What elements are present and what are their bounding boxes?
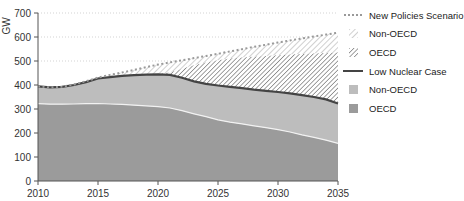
- legend-item-low-nuclear: Low Nuclear Case: [342, 62, 446, 81]
- x-tick-label: 2035: [327, 188, 350, 199]
- legend: New Policies Scenario Non-OECD OECD Low …: [342, 6, 446, 118]
- y-tick-label: 400: [14, 80, 31, 91]
- legend-label: Low Nuclear Case: [369, 66, 447, 77]
- x-tick-label: 2015: [87, 188, 110, 199]
- legend-item-nonoecd-solid: Non-OECD: [342, 80, 446, 99]
- legend-label: Non-OECD: [369, 84, 417, 95]
- legend-label: Non-OECD: [369, 28, 417, 39]
- y-tick-label: 100: [14, 152, 31, 163]
- legend-item-nonoecd-hatch: Non-OECD: [342, 25, 446, 44]
- y-tick-label: 200: [14, 128, 31, 139]
- y-axis-label: GW: [1, 17, 12, 35]
- y-tick-label: 600: [14, 32, 31, 43]
- dotted-line-icon: [342, 10, 364, 20]
- light-grey-swatch-icon: [342, 85, 364, 95]
- x-tick-label: 2025: [207, 188, 230, 199]
- legend-label: New Policies Scenario: [369, 10, 464, 21]
- legend-label: OECD: [369, 103, 396, 114]
- dense-hatch-swatch-icon: [342, 47, 364, 57]
- y-tick-label: 700: [14, 8, 31, 19]
- area-series: [38, 33, 338, 181]
- x-tick-label: 2020: [147, 188, 170, 199]
- dark-grey-swatch-icon: [342, 103, 364, 113]
- legend-label: OECD: [369, 47, 396, 58]
- solid-line-icon: [342, 66, 364, 76]
- x-tick-label: 2030: [267, 188, 290, 199]
- legend-item-oecd-solid: OECD: [342, 99, 446, 118]
- y-tick-label: 500: [14, 56, 31, 67]
- light-hatch-swatch-icon: [342, 29, 364, 39]
- x-tick-label: 2010: [27, 188, 50, 199]
- y-tick-label: 0: [25, 176, 31, 187]
- y-tick-label: 300: [14, 104, 31, 115]
- legend-item-oecd-hatch: OECD: [342, 43, 446, 62]
- legend-item-new-policies: New Policies Scenario: [342, 6, 446, 25]
